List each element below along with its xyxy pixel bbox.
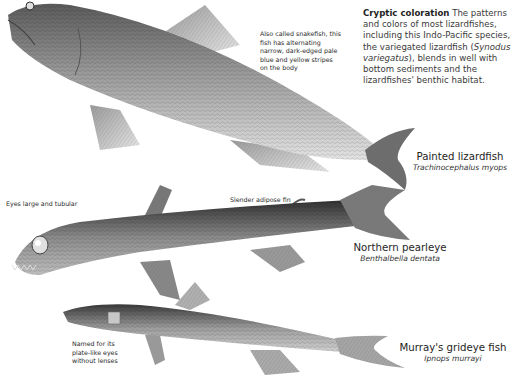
painted-lizardfish-illustration: [8, 2, 415, 190]
encyclopedia-page: Cryptic coloration The patterns and colo…: [0, 0, 519, 377]
fish-name-murrays-grideye: Murray's grideye fish Ipnops murrayi: [388, 341, 518, 364]
common-name: Painted lizardfish: [400, 150, 519, 163]
fish-name-northern-pearleye: Northern pearleye Benthalbella dentata: [340, 241, 460, 264]
annotation-plate-eyes: Named for its plate-like eyes without le…: [72, 340, 128, 366]
scientific-name: Ipnops murrayi: [388, 354, 518, 364]
annotation-snakefish: Also called snakefish, this fish has alt…: [260, 30, 342, 73]
common-name: Murray's grideye fish: [388, 341, 518, 354]
fish-name-painted-lizardfish: Painted lizardfish Trachinocephalus myop…: [400, 150, 519, 173]
common-name: Northern pearleye: [340, 241, 460, 254]
annotation-adipose-fin: Slender adipose fin: [230, 196, 330, 205]
intro-caption: Cryptic coloration The patterns and colo…: [363, 8, 515, 86]
intro-title: Cryptic coloration: [363, 8, 449, 18]
scientific-name: Benthalbella dentata: [340, 254, 460, 264]
annotation-eyes-tubular: Eyes large and tubular: [6, 200, 116, 209]
scientific-name: Trachinocephalus myops: [400, 163, 519, 173]
